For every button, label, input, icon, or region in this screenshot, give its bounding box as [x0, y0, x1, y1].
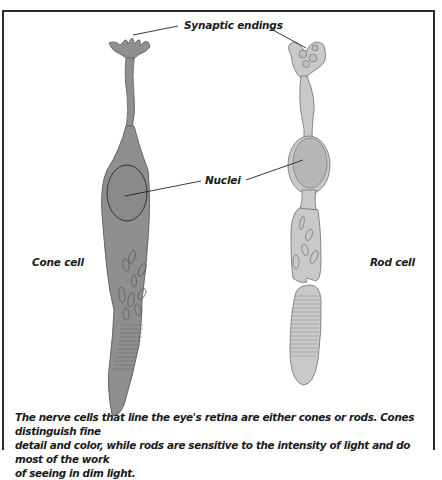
label-nuclei: Nuclei	[205, 174, 241, 186]
caption-line-1: The nerve cells that line the eye's reti…	[15, 410, 435, 438]
figure-caption: The nerve cells that line the eye's reti…	[15, 410, 435, 480]
label-synaptic-endings: Synaptic endings	[184, 19, 283, 31]
label-cone-cell: Cone cell	[32, 256, 84, 268]
cone-cell-drawing	[102, 39, 150, 416]
caption-line-2: detail and color, while rods are sensiti…	[15, 438, 435, 466]
rod-cell-drawing	[288, 42, 330, 385]
label-rod-cell: Rod cell	[370, 256, 415, 268]
leader-lines	[125, 26, 306, 196]
caption-line-3: of seeing in dim light.	[15, 466, 435, 480]
